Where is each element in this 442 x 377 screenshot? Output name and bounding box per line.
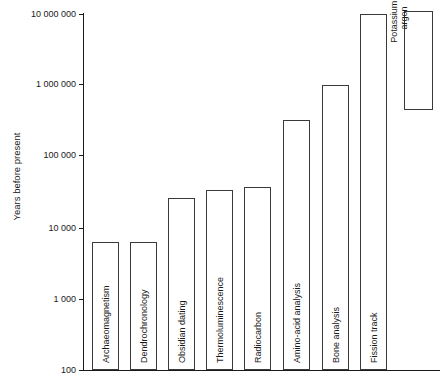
bar-label: Fission track [369, 312, 379, 363]
y-axis-title: Years before present [11, 107, 22, 247]
bar-archaeomagnetism: Archaeomagnetism [92, 242, 119, 370]
bar-label: Thermoluminescence [215, 277, 225, 363]
y-tick-mark [79, 84, 84, 85]
y-tick-label: 10 000 [48, 224, 76, 233]
y-tick-label: 10 000 000 [31, 10, 76, 19]
bar-label: Bone analysis [331, 307, 341, 363]
bar-label: Amino-acid analysis [292, 283, 302, 363]
y-tick-label: 1 000 000 [36, 80, 76, 89]
y-tick-mark [79, 370, 84, 371]
y-tick-label: 1 000 [53, 295, 76, 304]
bar-label: Dendrochronology [139, 289, 149, 363]
x-axis-line [83, 370, 440, 371]
bar-bone-analysis: Bone analysis [322, 85, 349, 370]
bar-label: Obsidian dating [177, 300, 187, 363]
y-tick-mark [79, 14, 84, 15]
y-axis-line [83, 13, 84, 371]
bar-label: Archaeomagnetism [101, 285, 111, 363]
bar-thermoluminescence: Thermoluminescence [206, 190, 233, 370]
bar-fission-track: Fission track [360, 14, 387, 370]
y-tick-mark [79, 299, 84, 300]
y-tick-label: 100 [61, 366, 76, 375]
y-tick-mark [79, 155, 84, 156]
bar-label: Radiocarbon [253, 312, 263, 363]
y-tick-label: 100 000 [43, 151, 76, 160]
bar-chart-figure: Years before present 10 000 0001 000 000… [0, 0, 442, 377]
bar-amino-acid-analysis: Amino-acid analysis [283, 120, 310, 370]
bar-label: Potassium –argon [389, 0, 409, 63]
bar-obsidian-dating: Obsidian dating [168, 198, 195, 370]
y-tick-mark [79, 228, 84, 229]
bar-radiocarbon: Radiocarbon [244, 187, 271, 370]
bar-dendrochronology: Dendrochronology [130, 242, 157, 370]
bar-potassium-argon: Potassium –argon [404, 11, 433, 110]
